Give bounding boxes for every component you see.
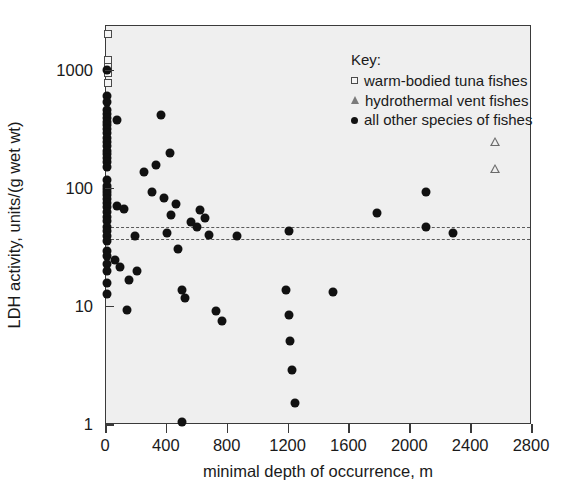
data-point-other-fish bbox=[232, 231, 241, 240]
x-axis-tick-label: 800 bbox=[213, 436, 241, 455]
legend-label-vent: hydrothermal vent fishes bbox=[365, 91, 528, 111]
data-point-other-fish bbox=[178, 418, 187, 427]
x-axis-title: minimal depth of occurrence, m bbox=[105, 462, 531, 481]
data-point-other-fish bbox=[140, 167, 149, 176]
data-point-other-fish bbox=[328, 287, 337, 296]
reference-line bbox=[106, 227, 530, 228]
data-point-other-fish bbox=[217, 317, 226, 326]
reference-line bbox=[106, 239, 530, 240]
data-point-other-fish bbox=[421, 187, 430, 196]
data-point-other-fish bbox=[205, 230, 214, 239]
data-point-other-fish bbox=[286, 337, 295, 346]
data-point-other-fish bbox=[152, 160, 161, 169]
legend-item-vent: hydrothermal vent fishes bbox=[351, 91, 532, 111]
data-point-other-fish bbox=[173, 244, 182, 253]
y-axis-tick bbox=[105, 424, 114, 426]
y-axis-tick bbox=[105, 70, 114, 72]
y-axis-title: LDH activity, units/(g wet wt) bbox=[5, 60, 24, 390]
legend-label-tuna: warm-bodied tuna fishes bbox=[364, 71, 527, 91]
data-point-other-fish bbox=[159, 194, 168, 203]
x-axis-tick bbox=[409, 424, 411, 433]
x-axis-tick bbox=[166, 424, 168, 433]
data-point-other-fish bbox=[167, 211, 176, 220]
x-axis-tick bbox=[227, 424, 229, 433]
y-axis-tick bbox=[105, 306, 114, 308]
legend-item-other: all other species of fishes bbox=[351, 110, 532, 130]
y-axis-tick-label: 1000 bbox=[56, 60, 93, 79]
x-axis-tick-label: 2400 bbox=[452, 436, 489, 455]
data-point-other-fish bbox=[287, 366, 296, 375]
data-point-other-fish bbox=[284, 227, 293, 236]
filled-circle-icon bbox=[351, 117, 358, 124]
data-point-other-fish bbox=[165, 149, 174, 158]
open-triangle-icon bbox=[351, 96, 359, 104]
x-axis: 040080012001600200024002800 bbox=[105, 424, 531, 425]
x-axis-tick-label: 1200 bbox=[269, 436, 306, 455]
data-point-other-fish bbox=[284, 311, 293, 320]
chart-figure: Key: warm-bodied tuna fishes hydrotherma… bbox=[0, 0, 562, 498]
data-point-other-fish bbox=[124, 275, 133, 284]
data-point-other-fish bbox=[120, 204, 129, 213]
data-point-other-fish bbox=[372, 208, 381, 217]
data-point-other-fish bbox=[156, 111, 165, 120]
y-axis-tick bbox=[105, 188, 114, 190]
data-point-vent-fish bbox=[490, 137, 500, 146]
open-square-icon bbox=[351, 77, 358, 84]
x-axis-tick-label: 2800 bbox=[513, 436, 550, 455]
legend-title: Key: bbox=[351, 50, 532, 70]
x-axis-tick bbox=[288, 424, 290, 433]
data-point-other-fish bbox=[211, 306, 220, 315]
y-axis: 1101001000 bbox=[105, 25, 106, 424]
data-point-other-fish bbox=[133, 267, 142, 276]
data-point-other-fish bbox=[147, 187, 156, 196]
data-point-other-fish bbox=[162, 229, 171, 238]
x-axis-tick bbox=[348, 424, 350, 433]
y-axis-tick-label: 100 bbox=[65, 178, 93, 197]
data-point-other-fish bbox=[421, 222, 430, 231]
data-point-other-fish bbox=[193, 222, 202, 231]
y-axis-tick-label: 10 bbox=[75, 296, 93, 315]
data-point-other-fish bbox=[112, 116, 121, 125]
data-point-other-fish bbox=[130, 231, 139, 240]
x-axis-tick-label: 400 bbox=[152, 436, 180, 455]
data-point-other-fish bbox=[448, 229, 457, 238]
data-point-other-fish bbox=[281, 285, 290, 294]
legend-item-tuna: warm-bodied tuna fishes bbox=[351, 71, 532, 91]
y-axis-title-wrap: LDH activity, units/(g wet wt) bbox=[22, 25, 24, 424]
x-axis-tick-label: 0 bbox=[100, 436, 109, 455]
y-axis-tick-label: 1 bbox=[84, 415, 93, 434]
legend-label-other: all other species of fishes bbox=[364, 110, 532, 130]
data-point-other-fish bbox=[181, 293, 190, 302]
data-point-vent-fish bbox=[490, 164, 500, 173]
data-point-other-fish bbox=[200, 213, 209, 222]
x-axis-tick-label: 2000 bbox=[391, 436, 428, 455]
x-axis-tick-label: 1600 bbox=[330, 436, 367, 455]
data-point-other-fish bbox=[171, 199, 180, 208]
data-point-other-fish bbox=[123, 306, 132, 315]
plot-area: Key: warm-bodied tuna fishes hydrotherma… bbox=[105, 25, 531, 424]
data-point-other-fish bbox=[116, 262, 125, 271]
x-axis-tick bbox=[470, 424, 472, 433]
data-point-other-fish bbox=[290, 398, 299, 407]
x-axis-tick bbox=[531, 424, 533, 433]
chart-legend: Key: warm-bodied tuna fishes hydrotherma… bbox=[351, 50, 532, 130]
